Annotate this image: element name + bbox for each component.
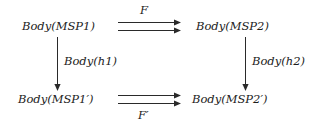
arrow-label-right: Body(h2) bbox=[252, 56, 305, 68]
node-top-left: Body(MSP1) bbox=[22, 21, 95, 33]
arrow-label-top: F bbox=[140, 5, 148, 17]
arrow-label-left: Body(h1) bbox=[64, 56, 117, 68]
arrow-left-vertical bbox=[54, 37, 60, 91]
arrow-label-bottom: F′ bbox=[138, 110, 149, 122]
arrow-bottom-double bbox=[118, 92, 181, 106]
arrow-top-double bbox=[118, 19, 181, 33]
commutative-diagram: Body(MSP1) Body(MSP2) Body(MSP1′) Body(M… bbox=[0, 0, 316, 130]
node-top-right: Body(MSP2) bbox=[196, 21, 269, 33]
arrow-right-vertical bbox=[242, 37, 248, 91]
node-bottom-right: Body(MSP2′) bbox=[192, 94, 268, 106]
node-bottom-left: Body(MSP1′) bbox=[18, 94, 94, 106]
